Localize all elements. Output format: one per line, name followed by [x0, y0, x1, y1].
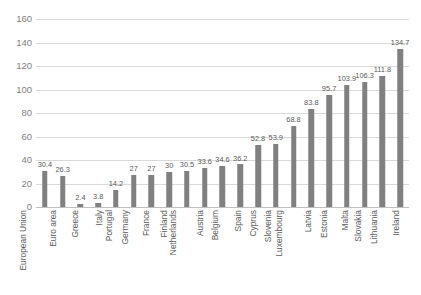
x-axis-category-text: Lithuania — [370, 210, 378, 244]
bar-value-label: 134.7 — [391, 39, 410, 46]
x-axis-category-label: Slovenia — [264, 178, 272, 210]
x-axis-category-label: Latvia — [305, 188, 313, 210]
bar-slot: 68.8 — [285, 19, 303, 207]
bar-value-label: 33.6 — [198, 158, 212, 165]
y-axis-tick-label: 80 — [0, 108, 32, 118]
x-axis-category-label: Estonia — [320, 182, 328, 210]
x-axis-label-slot: Netherlands — [178, 210, 196, 295]
x-axis-category-text: Slovakia — [353, 210, 361, 242]
bar-value-label: 30.4 — [38, 161, 52, 168]
x-axis-label-slot: Estonia — [320, 210, 338, 295]
bar[interactable] — [184, 171, 190, 207]
x-axis-category-text: Greece — [71, 210, 79, 237]
y-axis-tick-label: 60 — [0, 132, 32, 142]
bar-value-label: 53.9 — [269, 134, 283, 141]
x-axis-category-text: Latvia — [305, 210, 313, 232]
x-axis-category-label: Finland — [160, 183, 168, 210]
x-axis-category-text: Cyprus — [249, 210, 257, 237]
bar-slot: 95.7 — [320, 19, 338, 207]
bar[interactable] — [397, 49, 403, 207]
x-axis-category-text: Spain — [234, 210, 242, 231]
x-axis-category-text: Italy — [95, 210, 103, 225]
bar-value-label: 36.2 — [233, 155, 247, 162]
bar[interactable] — [131, 175, 137, 207]
y-axis-tick-label: 100 — [0, 85, 32, 95]
bar-value-label: 34.6 — [215, 156, 229, 163]
y-axis-tick-label: 160 — [0, 14, 32, 24]
x-axis-category-label: Greece — [71, 183, 79, 210]
bar-value-label: 27 — [147, 165, 155, 172]
x-axis-category-label: Malta — [341, 190, 349, 210]
bar-value-label: 103.9 — [338, 75, 357, 82]
x-axis-category-label: Germany — [121, 176, 129, 210]
x-axis-category-text: Ireland — [392, 210, 400, 236]
x-axis-category-label: European Union — [19, 149, 27, 210]
bar-slot: 83.8 — [302, 19, 320, 207]
x-axis-category-label: Belgium — [212, 180, 220, 210]
x-axis-category-text: European Union — [19, 210, 27, 271]
bar-slot: 30.5 — [178, 19, 196, 207]
bar[interactable] — [42, 171, 48, 207]
bar[interactable] — [60, 176, 66, 207]
x-axis-label-slot: France — [143, 210, 161, 295]
x-axis-category-text: Austria — [196, 210, 204, 236]
x-axis-category-text: Belgium — [212, 210, 220, 240]
bar[interactable] — [291, 126, 297, 207]
x-axis-category-label: Slovakia — [353, 178, 361, 210]
y-axis-tick-label: 120 — [0, 61, 32, 71]
bar-value-label: 106.3 — [355, 72, 374, 79]
x-axis-label-slot: Luxembourg — [285, 210, 303, 295]
x-axis-category-text: Netherlands — [169, 210, 177, 255]
bar[interactable] — [113, 190, 119, 207]
x-axis-category-label: Austria — [196, 184, 204, 210]
x-axis-category-label: Netherlands — [169, 165, 177, 210]
bar[interactable] — [362, 82, 368, 207]
x-axis-category-label: Luxembourg — [275, 163, 283, 210]
x-axis-category-label: Euro area — [49, 173, 57, 210]
x-axis-category-label: Italy — [95, 195, 103, 210]
bar-slot: 134.7 — [391, 19, 409, 207]
bar-slot: 27 — [143, 19, 161, 207]
bar-value-label: 26.3 — [55, 166, 69, 173]
bar-slot: 36.2 — [231, 19, 249, 207]
x-axis-category-label: Ireland — [392, 184, 400, 210]
bar[interactable] — [220, 166, 226, 207]
x-axis-labels: European UnionEuro areaGreeceItalyPortug… — [36, 210, 409, 295]
bar-value-label: 68.8 — [286, 116, 300, 123]
x-axis-label-slot: Spain — [231, 210, 249, 295]
bar-value-label: 30.5 — [180, 161, 194, 168]
x-axis-label-slot: Germany — [125, 210, 143, 295]
x-axis-label-slot: Ireland — [391, 210, 409, 295]
x-axis-category-text: Germany — [121, 210, 129, 244]
bar-value-label: 27 — [130, 165, 138, 172]
x-axis-category-text: Luxembourg — [275, 210, 283, 257]
x-axis-label-slot: Latvia — [302, 210, 320, 295]
x-axis-category-label: Cyprus — [249, 183, 257, 210]
x-axis-category-text: Malta — [341, 210, 349, 230]
bar-value-label: 52.8 — [251, 135, 265, 142]
x-axis-category-text: Slovenia — [264, 210, 272, 242]
x-axis-label-slot: Belgium — [214, 210, 232, 295]
x-axis-category-label: Spain — [234, 189, 242, 210]
bar-slot: 2.4 — [72, 19, 90, 207]
bar-value-label: 83.8 — [304, 99, 318, 106]
bar[interactable] — [380, 76, 386, 207]
x-axis-label-slot: Lithuania — [373, 210, 391, 295]
x-axis-category-text: Estonia — [320, 210, 328, 238]
y-axis-tick-label: 140 — [0, 38, 32, 48]
x-axis-category-text: France — [143, 210, 151, 236]
x-axis-category-label: Lithuania — [370, 176, 378, 210]
x-axis-label-slot: Greece — [72, 210, 90, 295]
x-axis-category-label: France — [143, 184, 151, 210]
x-axis-category-label: Portugal — [105, 179, 113, 210]
x-axis-category-text: Portugal — [105, 210, 113, 241]
bar-value-label: 95.7 — [322, 85, 336, 92]
x-axis-category-text: Euro area — [49, 210, 57, 247]
bar-value-label: 111.8 — [374, 66, 391, 73]
bar-chart: 020406080100120140160 30.426.32.43.814.2… — [0, 0, 421, 295]
